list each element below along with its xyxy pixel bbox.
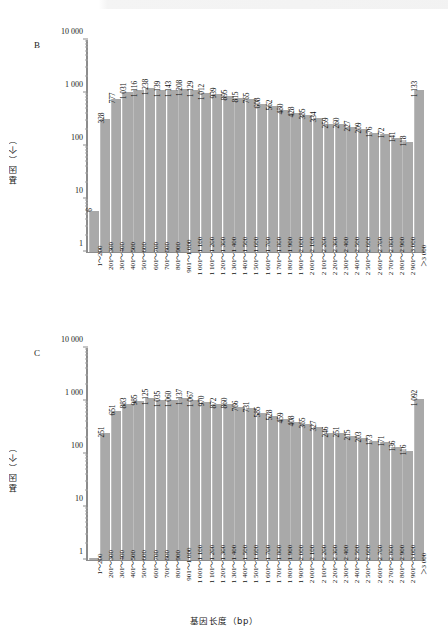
bar: 1 139 xyxy=(156,90,166,252)
bar-item xyxy=(88,348,99,560)
bar-value-label: 334 xyxy=(309,112,318,123)
bar-value-label: 608 xyxy=(253,98,262,109)
bar-value-label: 408 xyxy=(287,415,296,426)
x-tick-item: 1 801～1 900 xyxy=(278,254,289,322)
bar: 260 xyxy=(335,124,345,252)
y-tick-label: 1 000 xyxy=(65,388,88,397)
bar: 985 xyxy=(133,401,143,560)
bar: 895 xyxy=(223,96,233,252)
bar-item: 408 xyxy=(290,348,301,560)
bar: 215 xyxy=(346,436,356,560)
bar-value-label: 970 xyxy=(197,395,206,406)
bar-value-label: 1 139 xyxy=(153,81,162,98)
x-tick-item: 1 101～1 200 xyxy=(200,254,211,322)
bar-item: 328 xyxy=(99,40,110,252)
bar: 1 060 xyxy=(167,400,177,560)
y-tick-label: 10 000 xyxy=(61,27,88,36)
bar: 1 035 xyxy=(156,400,166,560)
bar: 1 116 xyxy=(133,90,143,252)
bar-value-label: 860 xyxy=(220,398,229,409)
chart-panel-c: C 基因（个） 1101001 00010 000 2516518839851 … xyxy=(0,322,448,632)
bar: 176 xyxy=(369,133,379,252)
x-tick-item: 1 301～1 400 xyxy=(222,254,233,322)
bar: 883 xyxy=(122,404,132,560)
bar-value-label: 1 031 xyxy=(119,83,128,100)
bar-value-label: 1 143 xyxy=(164,81,173,98)
bar-item: 895 xyxy=(222,40,233,252)
x-tick-item: 1～200 xyxy=(88,254,99,322)
bar-series-b: 63287771 0311 1161 2381 1391 1431 2081 1… xyxy=(88,40,424,252)
bar-item: 260 xyxy=(334,40,345,252)
bar-item: 334 xyxy=(312,40,323,252)
bar-item: 1 067 xyxy=(189,348,200,560)
bar: 651 xyxy=(111,411,121,560)
bar-value-label: 459 xyxy=(276,412,285,423)
bar: 251 xyxy=(100,433,110,560)
x-axis-title: 基因长度（bp） xyxy=(0,614,448,626)
bar-item: 1 116 xyxy=(133,40,144,252)
bar: 528 xyxy=(268,416,278,560)
x-tick-item: 601～700 xyxy=(144,254,155,322)
y-tick-label: 1 xyxy=(79,547,88,556)
plot-area-c: 1101001 00010 000 2516518839851 1251 035… xyxy=(88,348,424,560)
bar-item: 815 xyxy=(234,40,245,252)
bar-value-label: 136 xyxy=(388,440,397,451)
bar-item: 883 xyxy=(122,348,133,560)
bar: 480 xyxy=(279,110,289,252)
x-tick-item: 1 901～2 000 xyxy=(290,254,301,322)
bar-item: 1 139 xyxy=(155,40,166,252)
bar: 428 xyxy=(290,113,300,252)
bar-value-label: 895 xyxy=(220,89,229,100)
bar-value-label: 215 xyxy=(343,430,352,441)
bar-item: 1 125 xyxy=(144,348,155,560)
panel-label-b: B xyxy=(34,40,40,50)
bar: 227 xyxy=(346,127,356,252)
bar-value-label: 1 067 xyxy=(186,390,195,407)
bar-item: 777 xyxy=(110,40,121,252)
bar-item: 246 xyxy=(323,348,334,560)
x-tick-item: 1 001～1 100 xyxy=(189,254,200,322)
y-tick-label: 100 xyxy=(71,441,88,450)
bar-item: 118 xyxy=(402,40,413,252)
bar: 765 xyxy=(246,99,256,252)
bar-item: 1 137 xyxy=(178,348,189,560)
bar-value-label: 259 xyxy=(321,118,330,129)
bar-item: 651 xyxy=(110,348,121,560)
x-tick-item: 2 701～2 800 xyxy=(379,254,390,322)
bar-item: 327 xyxy=(312,348,323,560)
bar: 608 xyxy=(257,104,267,252)
x-tick-item: 1 401～1 500 xyxy=(234,254,245,322)
x-tick-item: 2 601～2 700 xyxy=(368,254,379,322)
bar-value-label: 939 xyxy=(209,88,218,99)
bar: 172 xyxy=(380,134,390,252)
bar: 1 067 xyxy=(190,400,200,560)
bar-value-label: 765 xyxy=(242,93,251,104)
bar-value-label: 585 xyxy=(253,407,262,418)
bar-value-label: 6 xyxy=(85,208,94,212)
bar-value-label: 1 092 xyxy=(410,390,419,407)
x-tick-item: 801～900 xyxy=(166,254,177,322)
x-tick-item: 2 901～3 000 xyxy=(402,254,413,322)
x-tick-item: 501～600 xyxy=(133,254,144,322)
bar-value-label: 328 xyxy=(97,112,106,123)
bar-value-label: 528 xyxy=(265,409,274,420)
bar: 1 125 xyxy=(145,398,155,560)
bar-item: 939 xyxy=(211,40,222,252)
panel-label-c: C xyxy=(34,348,40,358)
bar: 385 xyxy=(302,115,312,252)
bar-item: 1 060 xyxy=(166,348,177,560)
bar-value-label: 1 116 xyxy=(130,81,139,97)
bar-item: 608 xyxy=(256,40,267,252)
bar: 766 xyxy=(234,407,244,560)
bar: 136 xyxy=(391,447,401,560)
bar-item: 1 092 xyxy=(413,348,424,560)
bar-item: 6 xyxy=(88,40,99,252)
bar-item: 459 xyxy=(278,348,289,560)
bar: 334 xyxy=(313,118,323,252)
bar-value-label: 260 xyxy=(332,117,341,128)
bar-value-label: 766 xyxy=(231,401,240,412)
x-tick-item: 1 701～1 800 xyxy=(267,254,278,322)
bar-item: 860 xyxy=(222,348,233,560)
bar: 1 092 xyxy=(414,399,424,560)
x-tick-label: ＞3 000 xyxy=(418,553,428,576)
